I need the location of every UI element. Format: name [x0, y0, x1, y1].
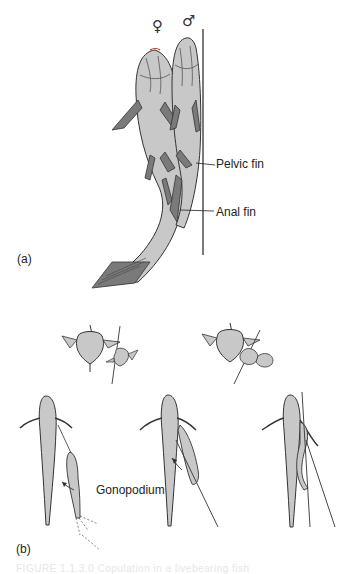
panel-b-front-views	[62, 323, 273, 384]
figure-caption: FIGURE 1.1.3.0 Copulation in a livebeari…	[16, 563, 250, 574]
label-anal-fin: Anal fin	[216, 205, 256, 219]
label-pelvic-fin: Pelvic fin	[216, 157, 264, 171]
panel-a-drawing	[92, 29, 215, 288]
female-symbol: ♀	[152, 17, 163, 35]
panel-a-label: (a)	[17, 252, 32, 266]
label-gonopodium: Gonopodium	[96, 483, 165, 497]
panel-b-dorsal-views	[20, 392, 335, 550]
panel-b-label: (b)	[16, 542, 31, 556]
male-symbol: ♂	[182, 12, 195, 30]
